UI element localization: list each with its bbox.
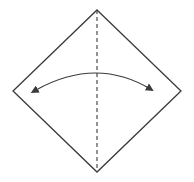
- origami-diagram: [0, 0, 194, 182]
